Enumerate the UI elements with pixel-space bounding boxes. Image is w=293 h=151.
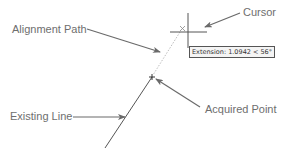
alignment-path-label: Alignment Path bbox=[12, 24, 87, 35]
diagram-canvas: Alignment Path Cursor Existing Line Acqu… bbox=[0, 0, 293, 151]
alignment-path-arrow bbox=[87, 29, 160, 52]
existing-line-label: Existing Line bbox=[10, 111, 72, 122]
crosshair-cursor-icon bbox=[170, 13, 207, 48]
acquired-point-arrow bbox=[156, 79, 200, 107]
cursor-arrow bbox=[205, 13, 240, 27]
acquired-point-label: Acquired Point bbox=[205, 104, 277, 115]
cursor-label: Cursor bbox=[243, 7, 276, 18]
alignment-x-marker-icon bbox=[180, 26, 185, 31]
extension-tooltip: Extension: 1.0942 < 56° bbox=[189, 46, 275, 58]
acquired-point-plus-icon bbox=[149, 74, 155, 80]
existing-line bbox=[105, 77, 152, 148]
alignment-path-line bbox=[153, 32, 180, 75]
